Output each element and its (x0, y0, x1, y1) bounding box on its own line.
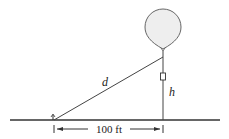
label-base-distance: 100 ft (96, 123, 122, 135)
balloon-icon (145, 9, 181, 51)
diagram-canvas: d h 100 ft (0, 0, 229, 139)
distance-line (54, 57, 163, 120)
payload-marker (161, 73, 166, 80)
observer-angle-mark (51, 114, 55, 120)
label-h: h (169, 85, 175, 99)
label-d: d (102, 75, 109, 89)
dimension-100ft: 100 ft (54, 123, 163, 135)
